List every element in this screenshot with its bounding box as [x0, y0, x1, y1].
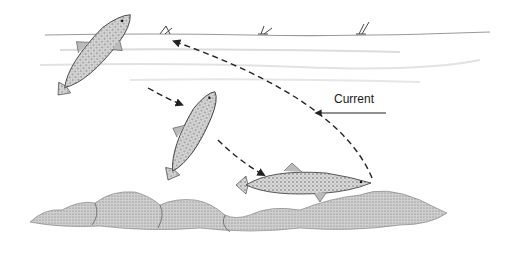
- current-label: Current: [334, 92, 374, 106]
- mayfly-icon: [258, 26, 272, 34]
- riverbed-rocks: [30, 191, 447, 232]
- trout-descending: [150, 82, 223, 184]
- trout-feeding-illustration: [0, 0, 508, 259]
- mayfly-icon: [160, 26, 172, 34]
- mayfly-icon: [356, 22, 369, 34]
- trout-rising: [42, 0, 144, 107]
